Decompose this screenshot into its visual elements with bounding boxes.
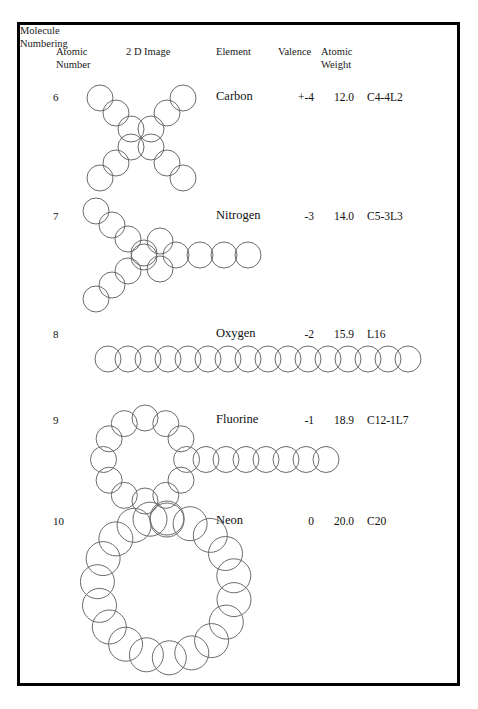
column-header-molecule-numbering: Molecule Numbering: [20, 25, 68, 50]
carbon-x-cross-svg: [76, 79, 206, 194]
valence-carbon: +-4: [278, 91, 314, 104]
molecule-diagram-neon: [72, 503, 262, 678]
molecule-diagram-nitrogen: [76, 195, 266, 315]
nitrogen-y-branch-svg: [76, 195, 266, 315]
molecule-diagram-oxygen: [20, 343, 420, 375]
fluorine-tail-group: [193, 447, 339, 473]
page-border: Atomic Number 2 D Image Element Valence …: [17, 22, 460, 686]
fluorine-ring-with-tail-svg: [88, 400, 348, 510]
table-row: 6: [53, 91, 59, 104]
atomic-weight-carbon: 12.0: [320, 91, 354, 104]
valence-oxygen: -2: [278, 328, 314, 341]
column-header-atomic-weight: Atomic Weight: [321, 46, 353, 71]
table-row: 10: [53, 515, 64, 528]
element-name-carbon: Carbon: [216, 90, 253, 103]
element-name-oxygen: Oxygen: [216, 327, 256, 340]
molecule-diagram-fluorine: [88, 400, 348, 510]
table-row: 7: [53, 210, 59, 223]
column-header-valence: Valence: [278, 46, 311, 59]
molecule-numbering-oxygen: L16: [367, 328, 386, 341]
atomic-weight-oxygen: 15.9: [320, 328, 354, 341]
molecule-numbering-nitrogen: C5-3L3: [367, 210, 403, 223]
table-sheet: Atomic Number 2 D Image Element Valence …: [20, 25, 457, 683]
oxygen-linear-chain-svg: [20, 343, 420, 375]
atomic-weight-nitrogen: 14.0: [320, 210, 354, 223]
molecule-numbering-neon: C20: [367, 515, 386, 528]
neon-ring-svg: [72, 503, 262, 678]
table-row: 9: [53, 414, 59, 427]
atomic-weight-neon: 20.0: [320, 515, 354, 528]
molecule-numbering-carbon: C4-4L2: [367, 91, 403, 104]
fluorine-ring-group: [91, 405, 200, 514]
table-row: 8: [53, 328, 59, 341]
molecule-numbering-fluorine: C12-1L7: [367, 414, 409, 427]
molecule-diagram-carbon: [76, 79, 206, 194]
column-header-element: Element: [216, 46, 251, 59]
column-header-2d-image: 2 D Image: [126, 46, 170, 59]
valence-nitrogen: -3: [278, 210, 314, 223]
neon-ring-group: [80, 501, 251, 675]
valence-neon: 0: [278, 515, 314, 528]
